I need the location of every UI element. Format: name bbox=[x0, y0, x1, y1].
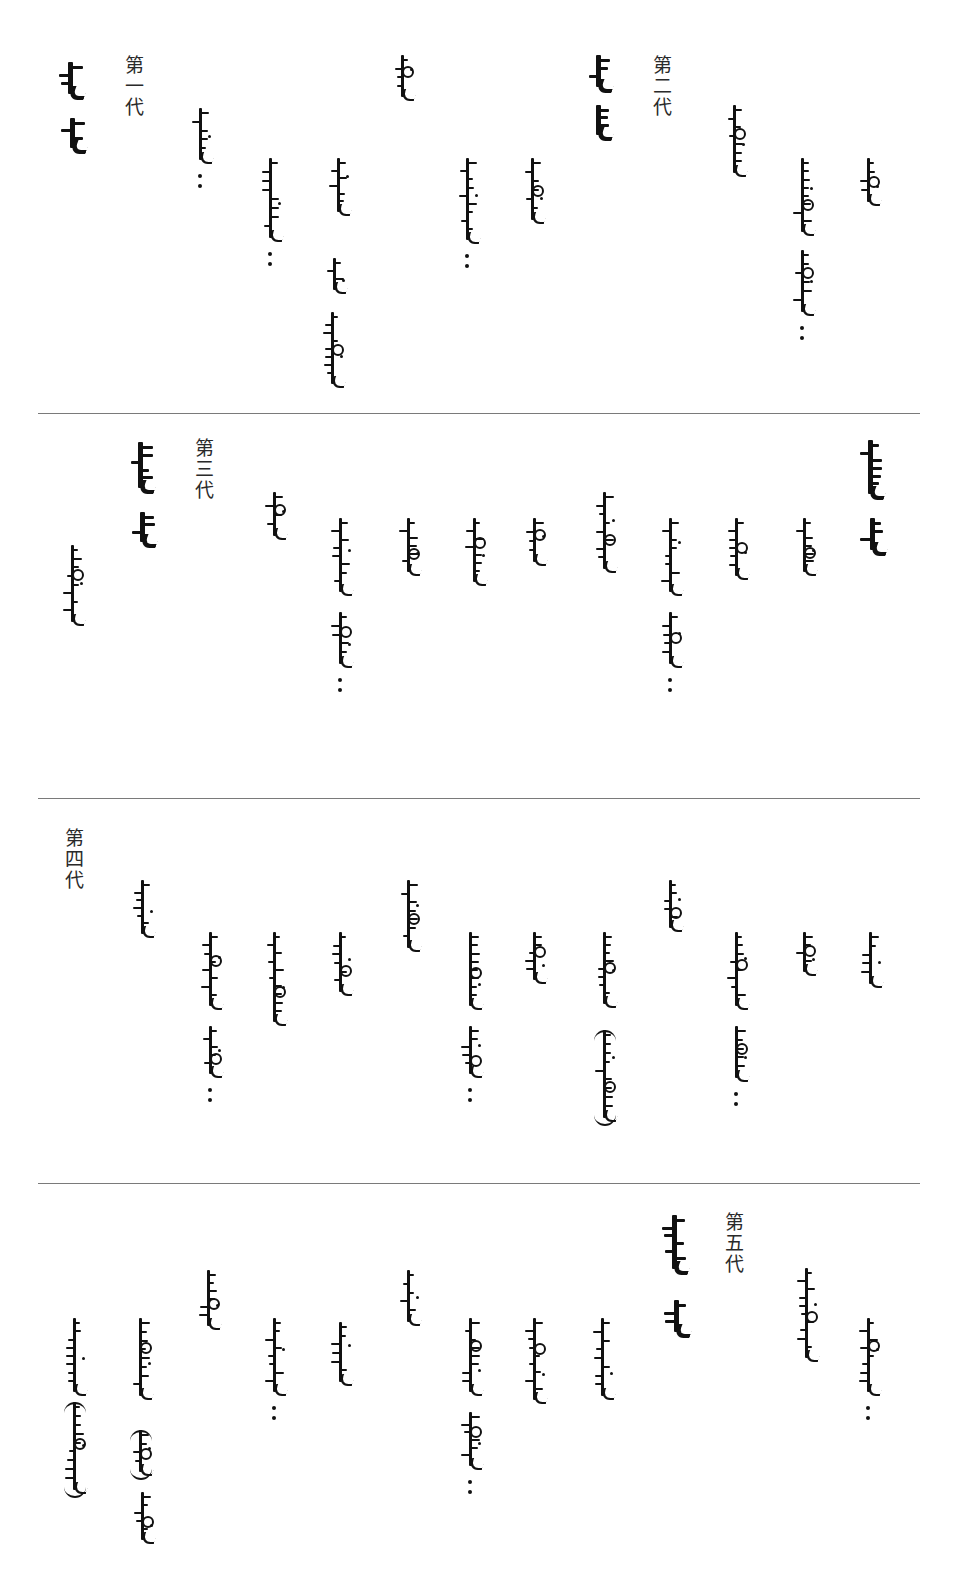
word-text: ᠬᠥᠪᠡᠭᠦᠨ bbox=[724, 932, 725, 933]
mongolian-name-word: (ᠮᠠᠯ) bbox=[128, 1430, 154, 1480]
word-text: ᠵᠠᠮᠰᠤ bbox=[130, 1492, 131, 1493]
word-text: ᠶᠢᠨ bbox=[664, 1300, 665, 1301]
word-text: ᠬᠥᠪᠡᠭᠦᠨ bbox=[856, 1318, 857, 1319]
mongolian-name-word: ᠪᠠᠶᠠᠷ bbox=[592, 932, 618, 1012]
mongolian-name-word: ᠪᠠᠶᠠᠳ bbox=[396, 1270, 422, 1330]
mongolian-heading-word: ᠶᠢᠨ bbox=[130, 512, 156, 552]
word-text: ᠲᠠᠢᠵᠢ bbox=[458, 1026, 459, 1027]
word-text: ᠶᠢᠯ bbox=[792, 932, 793, 933]
mongolian-name-word: ᠬᠥᠪᠡᠭᠦᠨ bbox=[455, 158, 481, 248]
mongolian-name-word: ᠲᠠᠢᠯ bbox=[196, 1270, 222, 1334]
mongolian-name-word: ᠮᠠᠩᠭᠠ bbox=[328, 932, 354, 1000]
mongolian-colon-punctuation bbox=[198, 174, 202, 194]
word-text: ᠪᠣᠯ bbox=[658, 880, 659, 881]
mongolian-colon-punctuation bbox=[272, 1406, 276, 1426]
mongolian-name-word: (ᠪᠠᠶᠠᠷᠮᠠ) bbox=[62, 1402, 88, 1498]
word-text: ᠪᠠᠢᠳᠤ bbox=[396, 880, 397, 881]
word-text: ᠮᠠᠨᠵᠤᠷ bbox=[128, 1318, 129, 1319]
mongolian-heading-word: ᠶᠢᠨ bbox=[664, 1300, 690, 1342]
mongolian-name-word: ᠮᠠᠨᠵᠤᠷ bbox=[62, 1318, 88, 1400]
word-text: ᠮᠠᠩᠭᠠ bbox=[328, 932, 329, 933]
word-text: ᠰᠠᠢᠨᠴᠤᠭ bbox=[262, 932, 263, 933]
word-text: ᠲᠠᠢᠵᠤ bbox=[520, 158, 521, 159]
mongolian-name-word: ᠲᠠᠢᠵᠢ bbox=[458, 1026, 484, 1082]
mongolian-name-word: ᠲᠠᠢᠵᠢ bbox=[458, 1412, 484, 1474]
word-text: ᠬᠥᠪᠡᠭᠦᠨ bbox=[258, 158, 259, 159]
mongolian-name-word: ᠨᠠᠢᠯ bbox=[396, 518, 422, 580]
section-divider bbox=[38, 798, 920, 799]
mongolian-name-word: ᠲᠠᠢᠵᠢ bbox=[790, 250, 816, 320]
mongolian-name-word: ᠵᠠᠮᠰᠤ bbox=[130, 1492, 156, 1548]
word-text: ᠰᠠᠢᠨᠴᠤᠭ bbox=[794, 1268, 795, 1269]
mongolian-name-word: ᠬᠥᠪᠡᠭᠦᠨ bbox=[658, 518, 684, 600]
generation-label: 第一代 bbox=[122, 55, 144, 118]
word-text: ᠲᠠᠢᠵᠢ bbox=[198, 1026, 199, 1027]
mongolian-name-word: ᠪᠠᠶᠠᠷ bbox=[188, 108, 214, 168]
mongolian-name-word: ᠲᠠᠢᠵᠤ bbox=[520, 158, 546, 228]
section-divider bbox=[38, 1183, 920, 1184]
mongolian-colon-punctuation bbox=[668, 678, 672, 698]
word-text: ᠪᠠᠶᠠᠳ bbox=[396, 1270, 397, 1271]
word-text: ᠬᠥᠪᠡᠭᠦᠨ bbox=[198, 932, 199, 933]
mongolian-name-word: ᠬᠥᠮᠤᠷᠵᠢ bbox=[522, 1318, 548, 1408]
mongolian-name-word: ᠶᠢᠯ bbox=[792, 932, 818, 980]
mongolian-colon-punctuation bbox=[208, 1088, 212, 1108]
mongolian-name-word: ᠮᠠᠩᠭᠠ bbox=[858, 932, 884, 992]
word-text: ᠲᠠᠢᠵᠢ bbox=[790, 250, 791, 251]
generation-label: 第五代 bbox=[722, 1212, 744, 1275]
word-text: ᠡᠬᠢᠭᠡ bbox=[858, 440, 859, 441]
word-text: (ᠪᠠᠶᠠᠷᠮᠠ) bbox=[62, 1402, 63, 1403]
word-text: ᠲᠠᠢᠵᠤ bbox=[326, 158, 327, 159]
word-text: ᠡᠬᠢ bbox=[586, 55, 587, 56]
mongolian-name-word: ᠲᠠᠢᠯ bbox=[724, 1026, 750, 1086]
mongolian-name-word: ᠪᠠᠢᠳᠤ bbox=[462, 518, 488, 590]
word-text: ᠲᠥᠷᠦ ᠪᠣ bbox=[390, 55, 391, 56]
mongolian-name-word: ᠬᠥᠪᠡᠭᠦᠨ bbox=[458, 932, 484, 1014]
word-text: ᠬᠥᠪᠡᠭᠦᠨ bbox=[455, 158, 456, 159]
mongolian-heading-word: ᠡᠬᠢᠭᠡ bbox=[662, 1215, 688, 1279]
word-text: ᠪᠣᠯ bbox=[522, 518, 523, 519]
mongolian-name-word: ᠲᠥᠷᠦ bbox=[322, 258, 348, 298]
word-text: ᠬᠥᠪᠡᠭᠦᠨ bbox=[458, 932, 459, 933]
word-text: ᠶᠢᠨ bbox=[130, 512, 131, 513]
mongolian-heading-word: ᠶᠢᠨ bbox=[60, 118, 86, 158]
word-text: ᠡᠴᠢᠭᠡ bbox=[60, 545, 61, 546]
word-text: ᠪᠠᠶᠠᠳ bbox=[792, 518, 793, 519]
generation-label: 第四代 bbox=[62, 828, 84, 891]
mongolian-name-word: ᠪᠠᠢᠳᠤ bbox=[396, 880, 422, 956]
mongolian-name-word: ᠪᠣᠯ bbox=[522, 518, 548, 570]
word-text: ᠨᠠᠢᠯ bbox=[130, 880, 131, 881]
glyph-stroke bbox=[733, 105, 736, 173]
mongolian-name-word: ᠬᠥᠪᠡᠭᠦᠨ bbox=[856, 1318, 882, 1400]
mongolian-name-word: ᠬᠥᠮᠤᠷᠮᠠ bbox=[590, 1318, 616, 1404]
genealogy-page: 第一代ᠡᠴᠢᠭᠡᠶᠢᠨᠪᠠᠶᠠᠷᠬᠥᠪᠡᠭᠦᠨᠲᠠᠢᠵᠤᠲᠥᠷᠦᠪᠣᠯᠲᠥᠷᠦ … bbox=[0, 0, 954, 1578]
word-text: ᠨᠠᠢᠯ bbox=[396, 518, 397, 519]
mongolian-name-word: ᠪᠢᠯ bbox=[522, 932, 548, 988]
generation-label: 第二代 bbox=[650, 55, 672, 118]
word-text: ᠶᠢᠨ bbox=[60, 118, 61, 119]
mongolian-name-word: (ᠪᠠᠶᠠᠷᠮᠠ) bbox=[592, 1030, 618, 1126]
mongolian-name-word: ᠰᠠᠢᠨᠴᠤᠭ bbox=[262, 932, 288, 1030]
mongolian-colon-punctuation bbox=[866, 1406, 870, 1426]
mongolian-heading-word: ᠡᠬᠢ bbox=[586, 55, 612, 97]
word-text: ᠲᠠᠢᠵᠢ bbox=[658, 612, 659, 613]
word-text: ᠬᠥᠪᠡᠭᠦᠨ bbox=[658, 518, 659, 519]
mongolian-name-word: ᠰᠠᠢᠨᠴᠤᠭ bbox=[794, 1268, 820, 1366]
mongolian-name-word: ᠬᠥᠪᠡᠭᠦᠨ bbox=[258, 158, 284, 246]
word-text: ᠶᠢᠨ bbox=[860, 518, 861, 519]
mongolian-name-word: ᠬᠥᠪᠡᠭᠦᠨ bbox=[262, 1318, 288, 1400]
mongolian-heading-word: ᠡᠴᠢᠭᠡ bbox=[58, 62, 84, 104]
word-text: ᠲᠠᠢᠵᠤ bbox=[722, 105, 723, 106]
word-text: ᠮᠠᠨᠵᠤᠷ bbox=[62, 1318, 63, 1319]
word-text: ᠪᠠᠶᠠᠷ bbox=[188, 108, 189, 109]
mongolian-name-word: ᠨᠠᠢᠯ bbox=[328, 1322, 354, 1390]
mongolian-name-word: ᠪᠠᠶᠠᠳ bbox=[792, 518, 818, 580]
mongolian-heading-word: ᠶᠢᠨ bbox=[860, 518, 886, 560]
mongolian-name-word: ᠬᠥᠪᠡᠭᠦᠨ bbox=[724, 932, 750, 1014]
mongolian-heading-word: ᠡᠬᠢᠭᠡ bbox=[858, 440, 884, 504]
word-text: (ᠮᠠᠯ) bbox=[128, 1430, 129, 1431]
word-text: ᠲᠠᠢᠵᠢ bbox=[458, 1412, 459, 1413]
mongolian-name-word: ᠪᠣᠯ bbox=[658, 880, 684, 936]
word-text: ᠡᠴᠢᠭᠡ bbox=[592, 492, 593, 493]
word-text: ᠡᠬᠢᠭᠡ bbox=[662, 1215, 663, 1216]
